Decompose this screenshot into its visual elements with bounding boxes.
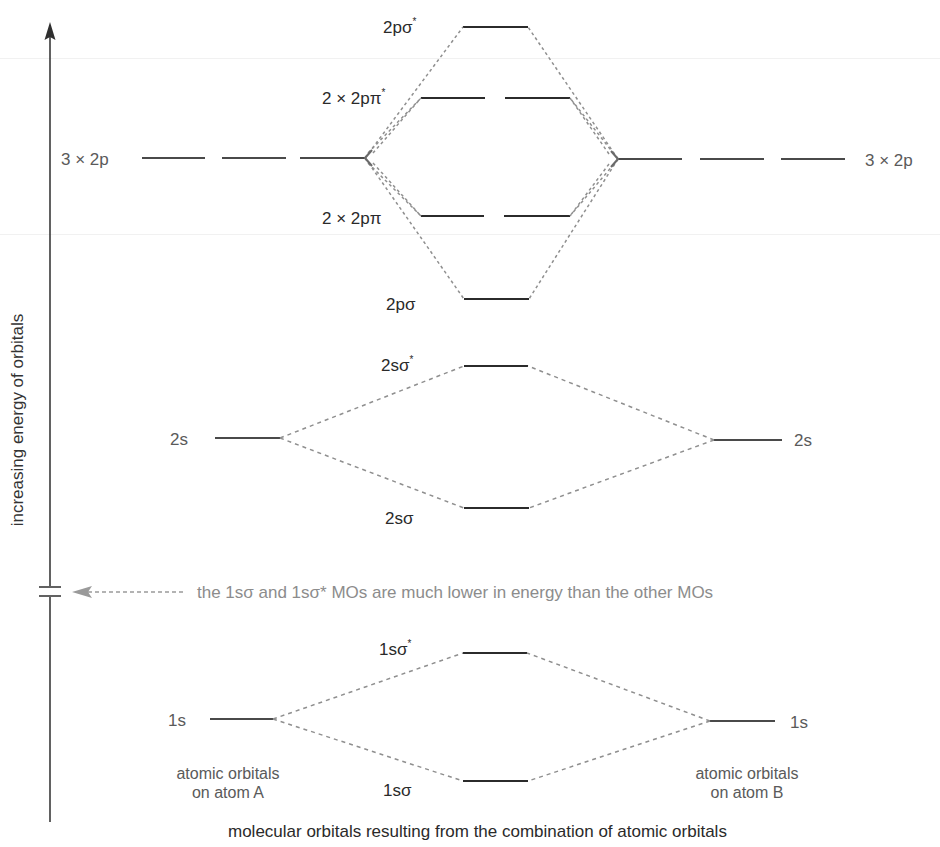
antibonding-star: * xyxy=(407,638,411,649)
mo-label-base: 1sσ xyxy=(383,781,411,800)
antibonding-star: * xyxy=(412,16,416,27)
mo-label-2ssigma: 2sσ xyxy=(385,510,413,527)
mo-label-base: 2sσ xyxy=(381,356,409,375)
mo-label-2ppi: 2 × 2pπ xyxy=(322,210,381,227)
2p-junction-marks xyxy=(365,150,618,167)
note-arrow xyxy=(72,586,186,598)
mo-label-2psigma-star: 2pσ* xyxy=(383,19,416,36)
2p-correlation-lines xyxy=(365,27,618,299)
mo-label-base: 2sσ xyxy=(385,509,413,528)
mo-label-1ssigma-star: 1sσ* xyxy=(379,641,411,658)
energy-axis-label: increasing energy of orbitals xyxy=(8,314,28,527)
mo-label-base: 2 × 2pπ xyxy=(322,89,381,108)
mo-label-2ssigma-star: 2sσ* xyxy=(381,357,413,374)
atom-b-1s-label: 1s xyxy=(790,714,808,731)
atom-a-2p-label: 3 × 2p xyxy=(61,151,109,168)
antibonding-star: * xyxy=(409,354,413,365)
energy-gap-note: the 1sσ and 1sσ* MOs are much lower in e… xyxy=(197,584,713,601)
mo-energy-diagram: increasing energy of orbitals 3 × 2p 2s … xyxy=(0,0,940,847)
mo-label-base: 2pσ xyxy=(386,295,415,314)
energy-axis xyxy=(39,22,61,822)
2s-correlation-lines xyxy=(280,366,714,508)
mo-label-2ppi-star: 2 × 2pπ* xyxy=(322,90,385,107)
atom-b-2s-label: 2s xyxy=(794,432,812,449)
1s-correlation-lines xyxy=(273,653,710,781)
diagram-caption: molecular orbitals resulting from the co… xyxy=(228,823,727,840)
mo-label-base: 2 × 2pπ xyxy=(322,209,381,228)
mo-label-base: 2pσ xyxy=(383,18,412,37)
atom-b-caption-line1: atomic orbitals xyxy=(685,764,809,783)
antibonding-star: * xyxy=(381,87,385,98)
mo-label-2psigma: 2pσ xyxy=(386,296,415,313)
atom-a-caption-line1: atomic orbitals xyxy=(166,764,290,783)
mo-label-base: 1sσ xyxy=(379,640,407,659)
atom-a-caption: atomic orbitals on atom A xyxy=(166,764,290,802)
atom-a-1s-label: 1s xyxy=(168,712,186,729)
atom-b-2p-label: 3 × 2p xyxy=(865,152,913,169)
atom-a-caption-line2: on atom A xyxy=(166,783,290,802)
atom-b-caption: atomic orbitals on atom B xyxy=(685,764,809,802)
atom-b-caption-line2: on atom B xyxy=(685,783,809,802)
mo-label-1ssigma: 1sσ xyxy=(383,782,411,799)
atom-a-2s-label: 2s xyxy=(170,431,188,448)
